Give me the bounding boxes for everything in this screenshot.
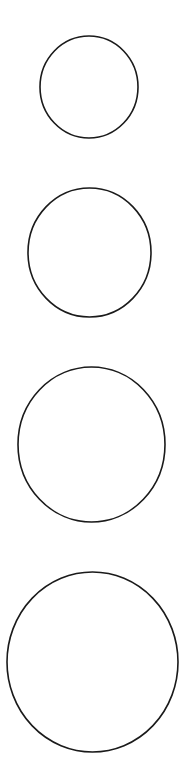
circle-medium: [28, 188, 151, 317]
circles-diagram: [0, 0, 187, 783]
circle-small: [40, 36, 138, 138]
circle-xlarge: [7, 572, 178, 752]
circle-large: [18, 367, 165, 522]
